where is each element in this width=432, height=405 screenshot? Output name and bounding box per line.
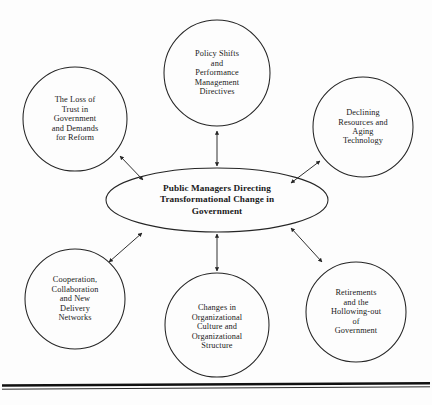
footer-rule bbox=[2, 383, 430, 389]
center-hub-label: Public Managers Directing Transformation… bbox=[160, 183, 274, 218]
diagram-canvas: Policy Shifts and Performance Management… bbox=[0, 0, 432, 405]
node-label-box-cooperation-collaboration: Cooperation, Collaboration and New Deliv… bbox=[25, 260, 125, 338]
node-label-organizational-change: Changes in Organizational Culture and Or… bbox=[192, 303, 243, 350]
connector-cooperation-collaboration bbox=[109, 233, 142, 262]
node-label-cooperation-collaboration: Cooperation, Collaboration and New Deliv… bbox=[52, 275, 99, 322]
node-label-box-loss-of-trust: The Loss of Trust in Government and Dema… bbox=[24, 80, 126, 158]
node-label-box-policy-shifts: Policy Shifts and Performance Management… bbox=[164, 34, 270, 112]
node-label-box-retirements-hollowing-out: Retirements and the Hollowing-out of Gov… bbox=[306, 273, 406, 351]
node-label-box-declining-resources: Declining Resources and Aging Technology bbox=[313, 95, 413, 159]
node-label-retirements-hollowing-out: Retirements and the Hollowing-out of Gov… bbox=[331, 288, 381, 335]
node-label-declining-resources: Declining Resources and Aging Technology bbox=[338, 108, 387, 146]
connector-retirements-hollowing-out bbox=[291, 228, 322, 262]
node-label-policy-shifts: Policy Shifts and Performance Management… bbox=[195, 49, 239, 96]
node-label-box-organizational-change: Changes in Organizational Culture and Or… bbox=[165, 288, 269, 366]
node-label-loss-of-trust: The Loss of Trust in Government and Dema… bbox=[52, 95, 99, 142]
center-label-box: Public Managers Directing Transformation… bbox=[117, 176, 317, 224]
